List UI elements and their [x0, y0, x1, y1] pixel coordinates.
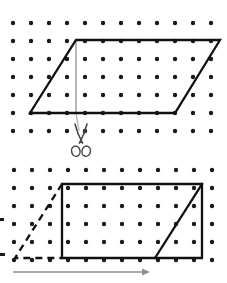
grid-dot [47, 39, 51, 43]
grid-dot [209, 111, 213, 115]
grid-dot [192, 240, 196, 244]
grid-dot [12, 168, 16, 172]
grid-dot [173, 75, 177, 79]
grid-dot [138, 204, 142, 208]
grid-dot [84, 240, 88, 244]
grid-dot [84, 222, 88, 226]
grid-dot [173, 93, 177, 97]
grid-dot [102, 186, 106, 190]
grid-dot [65, 129, 69, 133]
grid-dot [156, 240, 160, 244]
grid-dot [11, 39, 15, 43]
grid-dot [210, 258, 214, 262]
grid-dot [137, 129, 141, 133]
grid-dot [66, 186, 70, 190]
grid-dot [84, 168, 88, 172]
grid-dot [11, 111, 15, 115]
grid-dot [192, 222, 196, 226]
grid-dot [137, 75, 141, 79]
grid-dot [83, 93, 87, 97]
grid-dot [192, 186, 196, 190]
grid-dot [30, 168, 34, 172]
grid-dot [83, 57, 87, 61]
grid-dot [11, 75, 15, 79]
grid-dot [174, 186, 178, 190]
grid-dot [30, 186, 34, 190]
grid-dot [84, 204, 88, 208]
grid-dot [48, 222, 52, 226]
geometry-diagram [0, 0, 227, 283]
grid-dot [66, 168, 70, 172]
grid-dot [155, 129, 159, 133]
grid-dot [29, 93, 33, 97]
left-edge-mark-top [0, 218, 4, 221]
grid-dot [48, 168, 52, 172]
grid-dot [101, 93, 105, 97]
grid-dot [119, 75, 123, 79]
grid-dot [174, 204, 178, 208]
grid-dot [120, 168, 124, 172]
grid-dot [209, 93, 213, 97]
grid-dot [155, 75, 159, 79]
grid-dot [210, 240, 214, 244]
grid-dot [174, 240, 178, 244]
grid-dot [191, 75, 195, 79]
grid-dot [66, 240, 70, 244]
grid-dot [101, 75, 105, 79]
grid-dot [102, 168, 106, 172]
grid-dot [155, 93, 159, 97]
grid-dot [155, 57, 159, 61]
grid-dot [156, 186, 160, 190]
grid-dot [119, 57, 123, 61]
grid-dot [137, 93, 141, 97]
grid-dot [192, 204, 196, 208]
grid-dot [137, 21, 141, 25]
grid-dot [30, 258, 34, 262]
left-edge-mark-bottom [0, 253, 5, 256]
grid-dot [66, 222, 70, 226]
grid-dot [65, 21, 69, 25]
grid-dot [29, 57, 33, 61]
grid-dot [101, 57, 105, 61]
grid-dot [47, 57, 51, 61]
grid-dot [119, 93, 123, 97]
grid-dot [209, 21, 213, 25]
grid-dot [191, 129, 195, 133]
grid-dot [102, 204, 106, 208]
grid-dot [156, 204, 160, 208]
grid-dot [48, 186, 52, 190]
grid-dot [65, 75, 69, 79]
grid-dot [210, 204, 214, 208]
grid-dot [29, 75, 33, 79]
grid-dot [173, 57, 177, 61]
grid-dot [210, 186, 214, 190]
grid-dot [30, 204, 34, 208]
grid-dot [12, 204, 16, 208]
grid-dot [29, 21, 33, 25]
grid-dot [47, 129, 51, 133]
grid-dot [119, 21, 123, 25]
grid-dot [47, 21, 51, 25]
grid-dot [192, 168, 196, 172]
grid-dot [155, 21, 159, 25]
grid-dot [29, 129, 33, 133]
grid-dot [101, 21, 105, 25]
grid-dot [101, 129, 105, 133]
grid-dot [30, 222, 34, 226]
grid-dot [209, 129, 213, 133]
grid-dot [120, 186, 124, 190]
grid-dot [120, 222, 124, 226]
grid-dot [191, 111, 195, 115]
grid-dot [210, 168, 214, 172]
grid-dot [65, 93, 69, 97]
grid-dot [65, 39, 69, 43]
grid-dot [191, 57, 195, 61]
grid-dot [156, 222, 160, 226]
grid-dot [138, 186, 142, 190]
grid-dot [138, 222, 142, 226]
grid-dot [11, 93, 15, 97]
grid-dot [12, 222, 16, 226]
grid-dot [84, 186, 88, 190]
grid-dot [120, 240, 124, 244]
grid-dot [138, 240, 142, 244]
